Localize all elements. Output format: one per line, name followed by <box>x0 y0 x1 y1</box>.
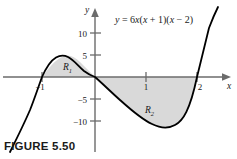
y-tick-label-minus-10: −10 <box>73 117 88 127</box>
y-tick-label-5: 5 <box>83 51 88 61</box>
x-tick-label-2: 2 <box>198 82 203 92</box>
x-axis-label: x <box>226 81 232 91</box>
x-axis-arrow <box>222 73 231 81</box>
y-axis-label: y <box>84 5 90 15</box>
y-axis-arrow <box>91 8 99 17</box>
y-tick-label-10: 10 <box>78 29 88 39</box>
figure-container: y x 10 5 −5 −10 −1 1 2 R1 R2 y = 6x(x + … <box>0 0 237 159</box>
region-label-r1-sub: 1 <box>69 67 72 74</box>
equation-label: y = 6x(x + 1)(x − 2) <box>114 14 193 26</box>
graph-plot: y x 10 5 −5 −10 −1 1 2 R1 R2 y = 6x(x + … <box>0 0 237 159</box>
figure-caption: FIGURE 5.50 <box>4 140 75 152</box>
x-tick-label-minus-1: −1 <box>35 82 45 92</box>
y-tick-label-minus-5: −5 <box>77 95 87 105</box>
x-tick-label-1: 1 <box>144 82 149 92</box>
